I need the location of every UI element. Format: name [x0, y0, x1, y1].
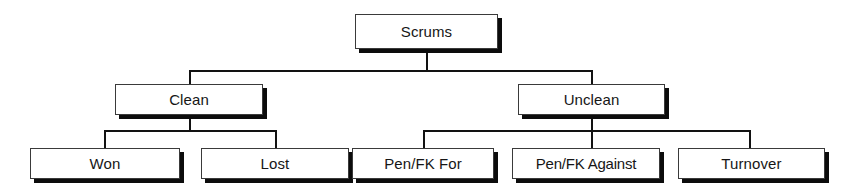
connector-clean-bus	[104, 130, 277, 132]
connector-root-to-clean	[189, 70, 191, 85]
node-unclean[interactable]: Unclean	[518, 84, 665, 115]
connector-clean-stem	[189, 114, 191, 131]
connector-unclean-bus	[423, 130, 751, 132]
node-lost-label: Lost	[261, 156, 290, 171]
node-won[interactable]: Won	[30, 148, 180, 179]
node-scrums-label: Scrums	[401, 24, 452, 39]
node-unclean-label: Unclean	[564, 92, 620, 107]
connector-root-stem	[426, 49, 428, 71]
node-pen-fk-for[interactable]: Pen/FK For	[352, 148, 494, 179]
node-pen-fk-for-label: Pen/FK For	[384, 156, 462, 171]
connector-unclean-stem	[591, 114, 593, 131]
connector-unclean-to-turnover	[749, 130, 751, 149]
node-pen-fk-against[interactable]: Pen/FK Against	[512, 148, 660, 179]
node-clean-label: Clean	[169, 92, 209, 107]
connector-unclean-to-pen-fk-against	[591, 130, 593, 149]
node-won-label: Won	[90, 156, 121, 171]
node-pen-fk-against-label: Pen/FK Against	[536, 156, 637, 171]
connector-root-bus	[189, 70, 593, 72]
connector-clean-to-won	[104, 130, 106, 149]
node-lost[interactable]: Lost	[201, 148, 349, 179]
scrums-tree-diagram: Scrums Clean Unclean Won Lost Pen/FK For…	[0, 0, 847, 189]
node-turnover-label: Turnover	[721, 156, 781, 171]
node-scrums[interactable]: Scrums	[355, 14, 498, 49]
node-clean[interactable]: Clean	[115, 84, 263, 115]
node-turnover[interactable]: Turnover	[678, 148, 825, 179]
connector-clean-to-lost	[275, 130, 277, 149]
connector-unclean-to-pen-fk-for	[423, 130, 425, 149]
connector-root-to-unclean	[591, 70, 593, 85]
